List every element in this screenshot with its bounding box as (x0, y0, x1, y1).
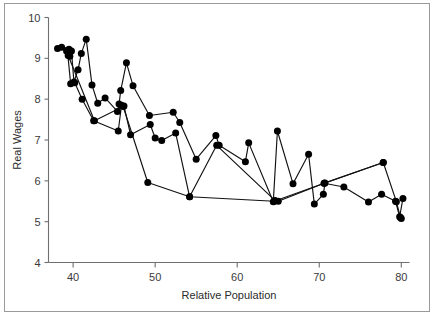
data-point (123, 59, 130, 66)
data-point (392, 198, 399, 205)
data-point (271, 198, 278, 205)
data-point (399, 195, 406, 202)
data-point (127, 131, 134, 138)
data-point (320, 191, 327, 198)
y-tick-label-9: 9 (34, 52, 40, 64)
y-axis-title: Real Wages (11, 110, 23, 170)
data-point (158, 137, 165, 144)
data-point (170, 109, 177, 116)
series-line-trajectory-a (58, 39, 402, 218)
y-tick-label-8: 8 (34, 93, 40, 105)
data-point (311, 201, 318, 208)
data-point (321, 180, 328, 187)
x-tick-label-60: 60 (231, 271, 243, 283)
data-point (146, 112, 153, 119)
data-point (94, 100, 101, 107)
data-point (340, 183, 347, 190)
x-tick-label-80: 80 (395, 271, 407, 283)
connected-scatter-plot: 456789104050607080 Relative PopulationRe… (0, 0, 434, 316)
data-point (83, 36, 90, 43)
data-point (88, 81, 95, 88)
y-tick-label-7: 7 (34, 134, 40, 146)
data-point (147, 121, 154, 128)
data-point (152, 134, 159, 141)
data-point (176, 119, 183, 126)
y-tick-label-6: 6 (34, 175, 40, 187)
data-point (396, 213, 403, 220)
x-tick-label-70: 70 (313, 271, 325, 283)
data-point (245, 139, 252, 146)
data-point (117, 87, 124, 94)
data-point (91, 117, 98, 124)
y-tick-label-4: 4 (34, 257, 40, 269)
data-point (212, 132, 219, 139)
data-point (65, 52, 72, 59)
data-point (144, 179, 151, 186)
data-point (213, 142, 220, 149)
x-tick-label-50: 50 (149, 271, 161, 283)
data-point (102, 94, 109, 101)
x-tick-label-40: 40 (67, 271, 79, 283)
data-point (115, 128, 122, 135)
data-point (114, 108, 121, 115)
data-point (378, 191, 385, 198)
y-tick-label-5: 5 (34, 216, 40, 228)
data-point (274, 128, 281, 135)
data-point (130, 82, 137, 89)
data-point (380, 159, 387, 166)
chart-figure: 456789104050607080 Relative PopulationRe… (0, 0, 434, 316)
data-point (172, 130, 179, 137)
x-axis-title: Relative Population (182, 289, 277, 301)
data-point (193, 156, 200, 163)
data-point (305, 151, 312, 158)
data-point (75, 66, 82, 73)
y-tick-label-10: 10 (28, 12, 40, 24)
data-point (78, 50, 85, 57)
data-point (365, 199, 372, 206)
series-layer (54, 36, 406, 222)
data-point (71, 79, 78, 86)
data-point (242, 158, 249, 165)
data-point (79, 96, 86, 103)
data-point (186, 193, 193, 200)
series-line-trajectory-c (68, 55, 383, 201)
data-point (290, 180, 297, 187)
data-point (120, 103, 127, 110)
